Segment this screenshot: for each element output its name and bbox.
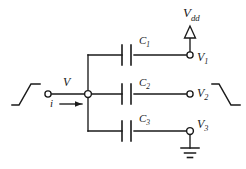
capacitor-c3-label: C3 [139,113,150,127]
terminal-v3-label-sub: 3 [204,124,208,133]
node-voltage-label: V [63,76,70,88]
terminal-v3-label: V3 [197,118,208,134]
terminal-v2-label-sub: 2 [204,93,208,102]
current-label-base: i [50,97,53,109]
capacitor-c3-label-sub: 3 [146,118,150,127]
capacitor-c2-plates [122,84,131,104]
input-waveform-rising [12,84,40,105]
capacitor-c3-plates [122,121,131,141]
supply-label-sub: dd [191,13,200,23]
terminal-v1-label: V1 [197,51,208,67]
supply-label-base: V [183,5,191,20]
current-arrow-i [60,101,82,107]
terminal-v3[interactable] [187,128,194,135]
terminal-v1-label-sub: 1 [204,57,208,66]
terminal-v2-label: V2 [197,87,208,103]
output-waveform-falling [212,84,240,105]
capacitor-c1-plates [122,45,131,65]
terminal-v1[interactable] [187,52,193,58]
node-voltage-label-base: V [63,75,70,89]
junction-node[interactable] [85,91,92,98]
terminal-v2[interactable] [187,91,193,97]
supply-label: Vdd [183,6,200,22]
circuit-schematic-canvas [0,0,246,169]
capacitor-c1-label-sub: 1 [146,40,150,49]
circuit-diagram: Vdd C1 C2 C3 V1 V2 V3 V i [0,0,246,169]
current-label: i [50,98,53,109]
supply-triangle-symbol [185,26,196,55]
capacitor-c1-label: C1 [139,35,150,49]
capacitor-c2-label-sub: 2 [146,82,150,91]
capacitor-c2-label: C2 [139,77,150,91]
